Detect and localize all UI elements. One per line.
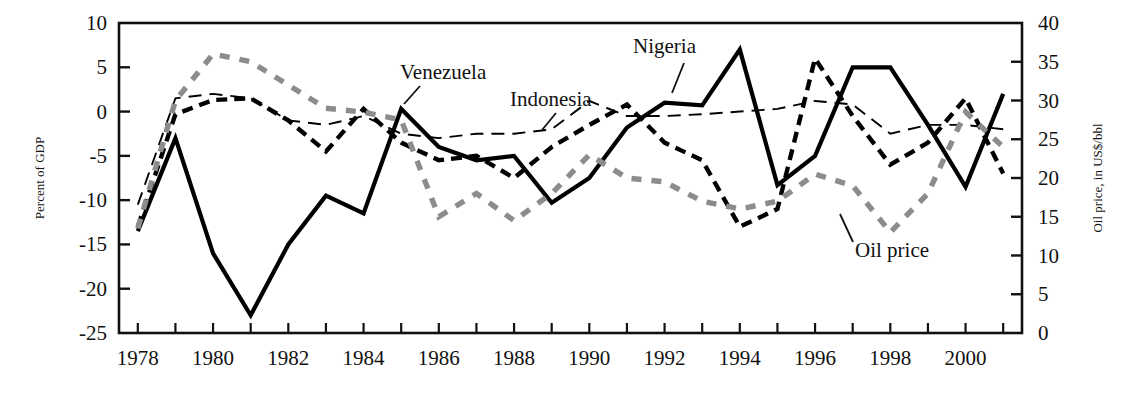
annotation-oil-price: Oil price: [855, 238, 929, 262]
annotation-venezuela: Venezuela: [400, 60, 487, 84]
x-tick-label: 1990: [568, 346, 610, 370]
x-tick-label: 1998: [869, 346, 911, 370]
chart-background: [0, 0, 1128, 401]
y-tick-label-left: -5: [90, 144, 108, 168]
annotation-indonesia: Indonesia: [510, 87, 592, 111]
y-tick-label-left: -10: [79, 188, 107, 212]
y-axis-left-title: Percent of GDP: [32, 137, 47, 219]
y-tick-label-right: 15: [1038, 205, 1059, 229]
y-tick-label-right: 30: [1038, 89, 1059, 113]
x-tick-label: 1986: [418, 346, 460, 370]
x-tick-label: 1984: [343, 346, 386, 370]
x-tick-label: 1982: [267, 346, 309, 370]
y-tick-label-left: 5: [97, 55, 108, 79]
y-tick-label-left: -20: [79, 277, 107, 301]
y-tick-label-right: 0: [1038, 321, 1049, 345]
x-tick-label: 1996: [794, 346, 836, 370]
x-tick-label: 2000: [945, 346, 987, 370]
y-tick-label-left: 10: [86, 11, 107, 35]
oil-exporters-fiscal-balance-chart: 1050-5-10-15-20-25 4035302520151050 1978…: [0, 0, 1128, 401]
annotation-nigeria: Nigeria: [633, 34, 697, 58]
x-tick-label: 1978: [117, 346, 159, 370]
x-tick-label: 1988: [493, 346, 535, 370]
y-tick-label-left: 0: [97, 100, 108, 124]
y-tick-label-right: 40: [1038, 11, 1059, 35]
x-tick-label: 1980: [192, 346, 234, 370]
y-axis-right-title: Oil price, in US$/bbl: [1090, 123, 1105, 232]
y-tick-label-right: 10: [1038, 244, 1059, 268]
y-tick-label-right: 25: [1038, 127, 1059, 151]
y-tick-label-left: -15: [79, 232, 107, 256]
y-tick-label-right: 5: [1038, 282, 1049, 306]
chart-container: 1050-5-10-15-20-25 4035302520151050 1978…: [0, 0, 1128, 401]
y-tick-label-right: 35: [1038, 50, 1059, 74]
y-tick-label-left: -25: [79, 321, 107, 345]
x-tick-label: 1994: [719, 346, 762, 370]
x-tick-label: 1992: [644, 346, 686, 370]
y-tick-label-right: 20: [1038, 166, 1059, 190]
